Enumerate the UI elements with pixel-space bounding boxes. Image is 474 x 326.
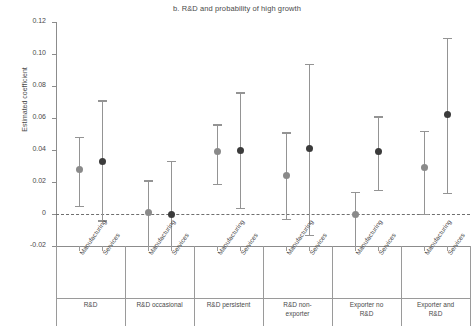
y-tick-label: 0.02 (32, 177, 46, 184)
group-label-line: Exporter and (401, 300, 470, 309)
estimate-marker (145, 209, 152, 216)
y-tick-label: 0.06 (32, 113, 46, 120)
ci-upper-cap (213, 124, 222, 125)
estimate-marker (168, 211, 175, 218)
estimate-marker (237, 147, 244, 154)
group-label: R&D (56, 300, 125, 309)
y-tick-label: 0.10 (32, 49, 46, 56)
y-tick-label: 0 (42, 209, 46, 216)
group-label-line: R&D persistent (194, 300, 263, 309)
group-label-line: R&D non- (263, 300, 332, 309)
ci-upper-cap (167, 161, 176, 162)
group-divider (401, 246, 402, 298)
estimate-marker (76, 166, 83, 173)
ci-lower-cap (305, 235, 314, 236)
estimate-marker (283, 172, 290, 179)
ci-lower-cap (420, 214, 429, 215)
group-label: R&D persistent (194, 300, 263, 309)
y-tick-label: 0.12 (32, 17, 46, 24)
ci-upper-cap (98, 100, 107, 101)
chart-title: b. R&D and probability of high growth (0, 4, 474, 13)
estimate-marker (421, 164, 428, 171)
y-tick-label: 0.08 (32, 81, 46, 88)
group-label-line: R&D (56, 300, 125, 309)
confidence-interval-bar (355, 192, 356, 246)
estimate-marker (444, 111, 451, 118)
ci-lower-cap (374, 190, 383, 191)
ci-lower-cap (75, 206, 84, 207)
y-axis-label: Estimated coefficient (21, 30, 28, 170)
estimate-marker (352, 211, 359, 218)
confidence-interval-bar (424, 131, 425, 214)
ci-upper-cap (443, 38, 452, 39)
group-label-line: Exporter no (332, 300, 401, 309)
ci-upper-cap (351, 192, 360, 193)
ci-upper-cap (75, 137, 84, 138)
group-divider (470, 246, 471, 298)
group-label-divider (470, 298, 471, 326)
plot-area (56, 22, 470, 246)
ci-lower-cap (236, 208, 245, 209)
ci-lower-cap (443, 193, 452, 194)
chart-root: b. R&D and probability of high growth Es… (0, 0, 474, 326)
y-tick-label: -0.02 (30, 241, 46, 248)
x-axis-category-panel: ManufacturingServicesManufacturingServic… (56, 246, 470, 326)
ci-upper-cap (282, 132, 291, 133)
estimate-marker (375, 148, 382, 155)
estimate-marker (306, 145, 313, 152)
group-label: R&D occasional (125, 300, 194, 309)
group-label: Exporter noR&D (332, 300, 401, 318)
ci-upper-cap (305, 64, 314, 65)
group-label: Exporter andR&D (401, 300, 470, 318)
group-divider (332, 246, 333, 298)
group-label-line: exporter (263, 309, 332, 318)
group-label-line: R&D (332, 309, 401, 318)
ci-lower-cap (282, 219, 291, 220)
ci-upper-cap (144, 180, 153, 181)
estimate-marker (99, 158, 106, 165)
ci-lower-cap (213, 184, 222, 185)
ci-upper-cap (374, 116, 383, 117)
group-label: R&D non-exporter (263, 300, 332, 318)
group-divider (56, 246, 57, 298)
group-label-line: R&D occasional (125, 300, 194, 309)
group-divider (125, 246, 126, 298)
estimate-marker (214, 148, 221, 155)
confidence-interval-bar (171, 161, 172, 246)
group-divider (194, 246, 195, 298)
group-label-line: R&D (401, 309, 470, 318)
ci-upper-cap (236, 92, 245, 93)
ci-upper-cap (420, 131, 429, 132)
group-divider (263, 246, 264, 298)
y-tick-label: 0.04 (32, 145, 46, 152)
